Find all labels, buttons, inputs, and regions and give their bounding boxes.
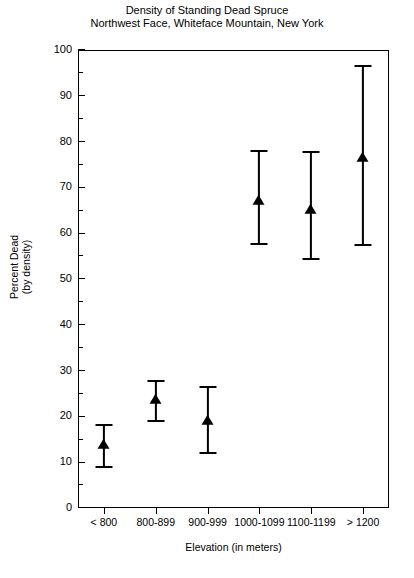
y-tick-label: 60 [34, 227, 72, 238]
y-tick-label: 50 [34, 273, 72, 284]
y-tick-label: 100 [34, 44, 72, 55]
y-tick-label: 70 [34, 181, 72, 192]
error-bar-cap-lower [147, 420, 164, 422]
data-marker-triangle [97, 439, 109, 449]
y-tick-label: 90 [34, 90, 72, 101]
x-tick [259, 508, 260, 514]
error-bar-cap-upper [147, 380, 164, 382]
y-tick-major [78, 233, 85, 234]
x-tick-label: < 800 [91, 516, 118, 528]
y-axis-title-line2: (by density) [20, 207, 32, 327]
y-tick-minor [78, 484, 83, 485]
y-tick-label: 0 [34, 502, 72, 513]
x-tick-label: 900-999 [188, 516, 227, 528]
x-tick-label: 800-899 [136, 516, 175, 528]
y-axis-title: Percent Dead (by density) [8, 207, 32, 327]
y-tick-minor [78, 393, 83, 394]
x-tick [104, 508, 105, 514]
x-tick [156, 508, 157, 514]
y-tick-major [78, 141, 85, 142]
error-bar-cap-lower [303, 258, 320, 260]
error-bar-cap-upper [199, 386, 216, 388]
data-marker-triangle [149, 394, 161, 404]
chart-title: Density of Standing Dead Spruce [0, 4, 414, 17]
y-tick-major [78, 507, 85, 508]
y-tick-major [78, 416, 85, 417]
y-tick-minor [78, 255, 83, 256]
error-bar-cap-lower [251, 243, 268, 245]
data-marker-triangle [357, 152, 369, 162]
data-marker-triangle [201, 415, 213, 425]
y-tick-minor [78, 72, 83, 73]
y-tick-label: 80 [34, 136, 72, 147]
y-tick-label: 40 [34, 319, 72, 330]
x-tick [208, 508, 209, 514]
plot-area [78, 50, 389, 508]
y-tick-label: 20 [34, 410, 72, 421]
y-tick-major [78, 187, 85, 188]
y-tick-minor [78, 210, 83, 211]
y-tick-minor [78, 439, 83, 440]
x-tick-label: 1000-1099 [234, 516, 284, 528]
y-tick-major [78, 324, 85, 325]
y-tick-major [78, 462, 85, 463]
data-marker-triangle [305, 204, 317, 214]
y-tick-label: 10 [34, 456, 72, 467]
error-bar-cap-lower [95, 466, 112, 468]
chart-title-block: Density of Standing Dead Spruce Northwes… [0, 4, 414, 30]
error-bar-cap-upper [95, 424, 112, 426]
x-axis-title: Elevation (in meters) [78, 541, 389, 553]
y-axis-title-line1: Percent Dead [8, 207, 20, 327]
x-tick-label: > 1200 [347, 516, 379, 528]
y-tick-major [78, 95, 85, 96]
y-tick-minor [78, 347, 83, 348]
error-bar-cap-upper [251, 150, 268, 152]
data-marker-triangle [253, 195, 265, 205]
x-tick-label: 1100-1199 [287, 516, 336, 528]
error-bar-cap-upper [303, 151, 320, 153]
x-tick [363, 508, 364, 514]
chart-container: Density of Standing Dead Spruce Northwes… [0, 0, 414, 578]
y-tick-major [78, 370, 85, 371]
error-bar-cap-upper [355, 65, 372, 67]
y-tick-minor [78, 301, 83, 302]
y-tick-label: 30 [34, 365, 72, 376]
x-tick [311, 508, 312, 514]
y-tick-minor [78, 164, 83, 165]
error-bar-cap-lower [199, 452, 216, 454]
chart-subtitle: Northwest Face, Whiteface Mountain, New … [0, 17, 414, 30]
y-tick-minor [78, 118, 83, 119]
y-tick-major [78, 49, 85, 50]
error-bar-cap-lower [355, 244, 372, 246]
y-tick-major [78, 278, 85, 279]
